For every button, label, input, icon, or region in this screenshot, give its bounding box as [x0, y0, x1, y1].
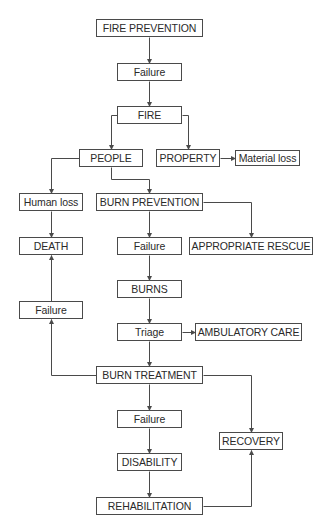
node-label: DISABILITY: [122, 456, 178, 468]
node-burn-prevention: BURN PREVENTION: [96, 193, 203, 211]
node-human-loss: Human loss: [19, 193, 83, 211]
node-disability: DISABILITY: [117, 453, 182, 471]
node-ambulatory-care: AMBULATORY CARE: [195, 323, 302, 341]
node-burn-treatment: BURN TREATMENT: [96, 366, 203, 384]
node-label: Failure: [134, 240, 165, 252]
node-material-loss: Material loss: [235, 150, 300, 166]
node-failure-1: Failure: [117, 63, 182, 81]
node-label: PEOPLE: [90, 152, 131, 164]
node-label: PROPERTY: [160, 152, 217, 164]
node-label: FIRE: [138, 109, 162, 121]
node-label: AMBULATORY CARE: [198, 326, 300, 338]
edge-burn_treatment-to-recovery: [204, 376, 252, 433]
node-death: DEATH: [19, 237, 83, 255]
node-label: APPROPRIATE RESCUE: [192, 240, 311, 252]
node-people: PEOPLE: [79, 149, 143, 167]
node-appropriate-rescue: APPROPRIATE RESCUE: [189, 237, 313, 255]
node-label: FIRE PREVENTION: [103, 22, 197, 34]
node-label: Failure: [134, 66, 165, 78]
edge-fire-to-property: [183, 116, 189, 150]
node-fire-prevention: FIRE PREVENTION: [96, 19, 203, 37]
node-failure-2: Failure: [117, 237, 182, 255]
node-failure-3: Failure: [117, 410, 182, 428]
node-recovery: RECOVERY: [219, 432, 283, 450]
node-rehabilitation: REHABILITATION: [96, 497, 203, 515]
node-label: Triage: [135, 326, 164, 338]
node-label: BURNS: [131, 283, 167, 295]
edge-burn_prevention-to-appropriate_rescue: [204, 203, 252, 238]
node-label: RECOVERY: [222, 435, 280, 447]
node-property: PROPERTY: [156, 149, 220, 167]
node-burns: BURNS: [117, 280, 182, 298]
node-label: Failure: [35, 304, 66, 316]
node-label: BURN TREATMENT: [102, 369, 196, 381]
node-failure-left: Failure: [19, 301, 83, 319]
edge-burn_treatment-to-failure_left: [52, 320, 97, 376]
edge-people-to-human_loss: [52, 159, 80, 194]
node-label: BURN PREVENTION: [100, 196, 199, 208]
node-label: Human loss: [24, 196, 78, 208]
node-label: REHABILITATION: [108, 500, 191, 512]
edge-rehabilitation-to-recovery: [204, 451, 252, 507]
edge-people-to-burn_prevention: [112, 168, 150, 194]
node-label: Failure: [134, 413, 165, 425]
node-label: DEATH: [34, 240, 68, 252]
node-fire: FIRE: [117, 106, 182, 124]
burn-flowchart: FIRE PREVENTION Failure FIRE PEOPLE PROP…: [0, 0, 329, 530]
node-label: Material loss: [239, 152, 297, 164]
node-triage: Triage: [117, 323, 182, 341]
